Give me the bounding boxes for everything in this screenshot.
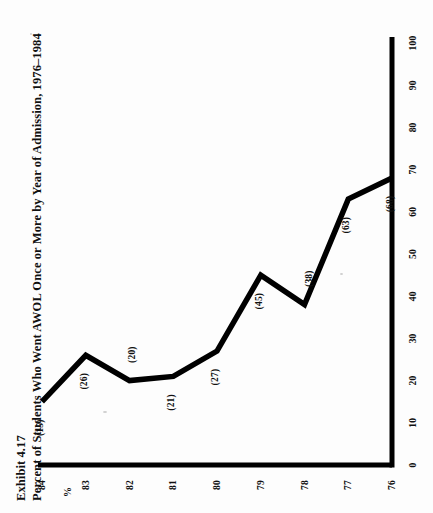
category-axis-tick-label: 78	[300, 480, 310, 490]
scan-speckle	[103, 411, 107, 413]
category-axis-tick-label: 79	[256, 480, 266, 490]
category-axis-tick-label: 84	[37, 480, 47, 490]
value-axis-tick-label: 20	[408, 376, 418, 386]
data-point-label: (21)	[166, 394, 176, 411]
category-axis-tick-label: 83	[81, 480, 91, 490]
value-axis-tick-label: 90	[408, 80, 418, 90]
line-chart: 0102030405060708090100767778798081828384…	[0, 0, 433, 513]
scanned-page: Exhibit 4.17 Percent of Students Who Wen…	[0, 0, 433, 513]
data-point-label: (20)	[127, 346, 137, 363]
category-axis-tick-label: 77	[343, 480, 353, 490]
data-point-label: (38)	[304, 270, 314, 287]
value-axis-tick-label: 50	[408, 249, 418, 259]
value-axis-tick-label: 60	[408, 207, 418, 217]
value-axis-tick-label: 70	[408, 165, 418, 175]
value-axis-tick-label: 10	[408, 418, 418, 428]
data-point-label: (68)	[385, 196, 395, 213]
data-point-label: (27)	[210, 369, 220, 386]
value-axis-tick-label: 40	[408, 291, 418, 301]
chart-axes	[38, 37, 392, 468]
figure-stage: Exhibit 4.17 Percent of Students Who Wen…	[0, 0, 433, 513]
value-axis-tick-label: 80	[408, 122, 418, 132]
category-axis-tick-label: 80	[212, 480, 222, 490]
value-axis-tick-label: 0	[408, 463, 418, 468]
value-axis-tick-label: 100	[408, 36, 418, 51]
chart-canvas	[0, 0, 433, 513]
data-point-label: (15)	[35, 419, 45, 436]
scan-speckle	[30, 33, 32, 35]
data-point-label: (45)	[254, 293, 264, 310]
category-axis-tick-label: 76	[387, 480, 397, 490]
value-axis-tick-label: 30	[408, 333, 418, 343]
scan-speckle	[340, 273, 343, 275]
category-axis-tick-label: 82	[125, 480, 135, 490]
data-point-label: (63)	[341, 217, 351, 234]
category-axis-tick-label: 81	[168, 480, 178, 490]
data-point-label: (26)	[79, 373, 89, 390]
